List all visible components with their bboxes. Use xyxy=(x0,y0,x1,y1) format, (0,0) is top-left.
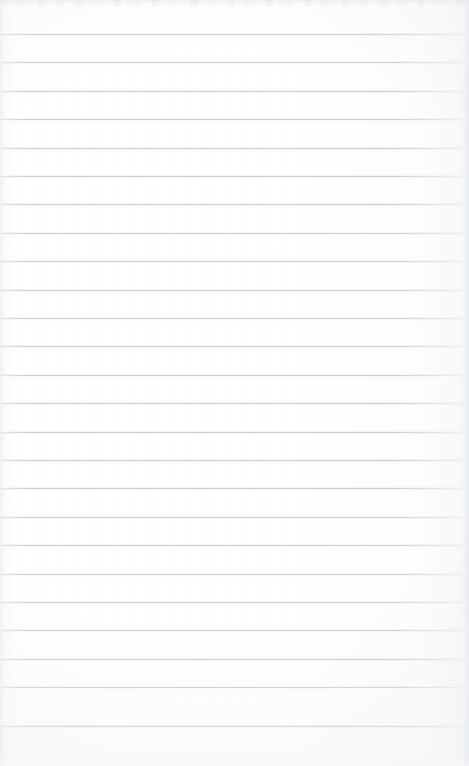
rule-line xyxy=(0,403,465,404)
rule-line xyxy=(0,91,465,92)
rule-line xyxy=(0,204,465,205)
rule-line xyxy=(0,460,465,461)
rule-line xyxy=(0,630,465,631)
rule-line xyxy=(0,375,465,376)
rule-line xyxy=(0,432,465,433)
rule-line xyxy=(0,659,465,660)
rule-line xyxy=(0,119,465,120)
rule-line xyxy=(0,148,465,149)
rule-line xyxy=(0,318,465,319)
rule-line xyxy=(0,176,465,177)
rule-line xyxy=(0,261,465,262)
scanned-page xyxy=(0,0,469,766)
rule-line xyxy=(0,726,465,727)
ruled-lines-layer xyxy=(0,0,469,766)
rule-line xyxy=(0,574,465,575)
rule-line xyxy=(0,34,465,35)
rule-line xyxy=(0,545,465,546)
rule-line xyxy=(0,488,465,489)
rule-line xyxy=(0,62,465,63)
rule-line xyxy=(0,687,465,688)
rule-line xyxy=(0,602,465,603)
rule-line xyxy=(0,290,465,291)
rule-line xyxy=(0,346,465,347)
rule-line xyxy=(0,233,465,234)
rule-line xyxy=(0,517,465,518)
